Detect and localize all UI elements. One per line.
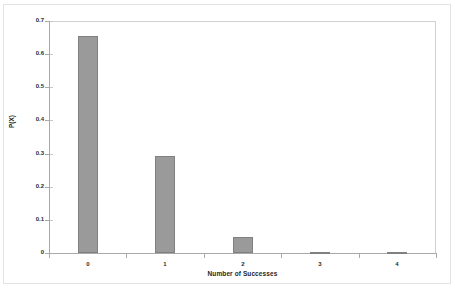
x-axis-tick-label: 2	[223, 260, 263, 268]
x-axis-line	[49, 253, 437, 254]
y-axis-tick-inner	[50, 187, 53, 188]
x-axis-tick	[359, 254, 360, 258]
x-axis-tick	[49, 254, 50, 258]
y-axis-tick	[45, 154, 49, 155]
bar	[155, 156, 175, 253]
x-axis-tick-label: 3	[300, 260, 340, 268]
y-axis-tick-label: 0.5	[4, 83, 44, 90]
y-axis-tick-inner	[50, 87, 53, 88]
bar	[387, 252, 407, 254]
y-axis-tick-inner	[50, 54, 53, 55]
probability-distribution-chart: 00.10.20.30.40.50.60.7 01234 P(X) Number…	[0, 0, 455, 289]
y-axis-tick	[45, 187, 49, 188]
bar	[78, 36, 98, 253]
y-axis-tick	[45, 120, 49, 121]
x-axis-tick	[126, 254, 127, 258]
bar	[310, 252, 330, 254]
y-axis-tick-label: 0.7	[4, 17, 44, 24]
y-axis-tick	[45, 54, 49, 55]
x-axis-tick-label: 1	[145, 260, 185, 268]
y-axis-tick-inner	[50, 120, 53, 121]
x-axis-tick	[281, 254, 282, 258]
x-axis-tick	[436, 254, 437, 258]
y-axis-tick	[45, 87, 49, 88]
plot-area	[49, 21, 436, 253]
y-axis-tick-label: 0.2	[4, 183, 44, 190]
y-axis-tick-label: 0.1	[4, 216, 44, 223]
y-axis-tick-label: 0	[4, 249, 44, 256]
x-axis-tick	[204, 254, 205, 258]
y-axis-tick-inner	[50, 21, 53, 22]
y-axis-tick	[45, 21, 49, 22]
y-axis-title: P(X)	[8, 115, 15, 128]
bar	[233, 237, 253, 253]
x-axis-tick-label: 4	[377, 260, 417, 268]
y-axis-tick	[45, 220, 49, 221]
x-axis-tick-label: 0	[68, 260, 108, 268]
y-axis-tick-inner	[50, 220, 53, 221]
plot-top-border	[49, 21, 436, 22]
y-axis-tick-label: 0.6	[4, 50, 44, 57]
plot-right-border	[435, 21, 436, 253]
x-axis-title: Number of Successes	[49, 270, 436, 277]
y-axis-tick-inner	[50, 154, 53, 155]
y-axis-tick-label: 0.3	[4, 150, 44, 157]
